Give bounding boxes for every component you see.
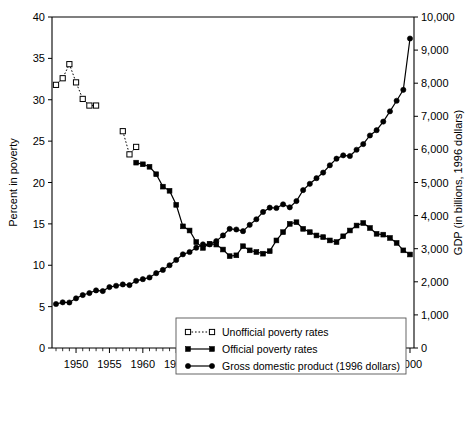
data-point-marker xyxy=(267,205,272,210)
data-point-marker xyxy=(274,238,279,243)
data-point-marker xyxy=(341,153,346,158)
data-point-marker xyxy=(321,170,326,175)
data-point-marker xyxy=(87,103,92,108)
left-axis-tick-label: 25 xyxy=(33,135,45,147)
poverty-gdp-chart: 051015202530354001,0002,0003,0004,0005,0… xyxy=(0,0,473,421)
data-point-marker xyxy=(287,221,292,226)
data-point-marker xyxy=(209,363,214,368)
data-point-marker xyxy=(401,248,406,253)
data-point-marker xyxy=(247,222,252,227)
data-point-marker xyxy=(67,300,72,305)
data-point-marker xyxy=(327,238,332,243)
data-point-marker xyxy=(73,296,78,301)
data-point-marker xyxy=(280,202,285,207)
data-point-marker xyxy=(53,82,58,87)
data-point-marker xyxy=(334,156,339,161)
data-point-marker xyxy=(327,163,332,168)
right-axis-tick-label: 1,000 xyxy=(421,309,449,321)
data-point-marker xyxy=(361,221,366,226)
data-point-marker xyxy=(167,188,172,193)
legend-item-label: Official poverty rates xyxy=(222,343,318,355)
data-point-marker xyxy=(140,277,145,282)
data-point-marker xyxy=(367,133,372,138)
data-point-marker xyxy=(361,142,366,147)
data-point-marker xyxy=(100,288,105,293)
data-point-marker xyxy=(307,181,312,186)
data-point-marker xyxy=(134,278,139,283)
data-point-marker xyxy=(368,226,373,231)
data-point-marker xyxy=(407,36,412,41)
series-line xyxy=(56,39,410,304)
data-point-marker xyxy=(194,240,199,245)
data-point-marker xyxy=(147,275,152,280)
data-point-marker xyxy=(60,76,65,81)
left-axis-title: Percent in poverty xyxy=(7,138,19,227)
series-line xyxy=(123,131,136,154)
data-point-marker xyxy=(347,153,352,158)
right-axis-title: GDP (in billions, 1996 dollars) xyxy=(452,110,464,255)
data-point-marker xyxy=(167,263,172,268)
series-gross-domestic-product-1996-dollars xyxy=(53,36,412,307)
left-axis-tick-label: 10 xyxy=(33,259,45,271)
data-point-marker xyxy=(347,228,352,233)
data-point-marker xyxy=(200,242,205,247)
left-axis-tick-label: 5 xyxy=(39,301,45,313)
data-point-marker xyxy=(174,257,179,262)
data-point-marker xyxy=(73,80,78,85)
data-point-marker xyxy=(67,62,72,67)
data-point-marker xyxy=(160,184,165,189)
data-point-marker xyxy=(381,232,386,237)
right-axis-tick-label: 8,000 xyxy=(421,77,449,89)
data-point-marker xyxy=(220,233,225,238)
data-point-marker xyxy=(60,300,65,305)
data-point-marker xyxy=(234,227,239,232)
data-point-marker xyxy=(93,288,98,293)
right-axis-tick-label: 6,000 xyxy=(421,143,449,155)
data-point-marker xyxy=(180,252,185,257)
data-point-marker xyxy=(341,234,346,239)
data-point-marker xyxy=(181,224,186,229)
chart-legend: Unofficial poverty ratesOfficial poverty… xyxy=(176,318,406,374)
data-point-marker xyxy=(394,241,399,246)
data-point-marker xyxy=(401,87,406,92)
data-point-marker xyxy=(114,283,119,288)
series-official-poverty-rates xyxy=(134,160,413,258)
data-point-marker xyxy=(274,205,279,210)
left-axis-tick-label: 0 xyxy=(39,342,45,354)
data-point-marker xyxy=(307,230,312,235)
data-point-marker xyxy=(388,236,393,241)
series-unofficial-poverty-rates xyxy=(53,62,138,157)
data-point-marker xyxy=(53,301,58,306)
data-point-marker xyxy=(120,129,125,134)
data-point-marker xyxy=(254,217,259,222)
x-axis-tick-label: 1955 xyxy=(97,358,121,370)
data-point-marker xyxy=(147,164,152,169)
data-point-marker xyxy=(210,347,215,352)
data-point-marker xyxy=(214,238,219,243)
data-point-marker xyxy=(354,147,359,152)
series-line xyxy=(136,163,410,257)
data-point-marker xyxy=(234,253,239,258)
data-point-marker xyxy=(107,284,112,289)
legend-item-label: Gross domestic product (1996 dollars) xyxy=(222,360,400,372)
data-point-marker xyxy=(174,202,179,207)
data-point-marker xyxy=(240,229,245,234)
data-point-marker xyxy=(301,226,306,231)
left-axis-tick-label: 40 xyxy=(33,11,45,23)
x-axis-tick-label: 1960 xyxy=(131,358,155,370)
data-point-marker xyxy=(227,226,232,231)
data-point-marker xyxy=(227,254,232,259)
chart-canvas: 051015202530354001,0002,0003,0004,0005,0… xyxy=(0,0,473,421)
left-axis-tick-label: 35 xyxy=(33,52,45,64)
data-point-marker xyxy=(134,144,139,149)
data-point-marker xyxy=(267,249,272,254)
data-point-marker xyxy=(408,252,413,257)
data-point-marker xyxy=(241,244,246,249)
right-axis-tick-label: 0 xyxy=(421,342,427,354)
data-point-marker xyxy=(80,96,85,101)
right-axis-tick-label: 10,000 xyxy=(421,11,455,23)
data-point-marker xyxy=(185,363,190,368)
data-point-marker xyxy=(321,235,326,240)
data-point-marker xyxy=(154,271,159,276)
data-point-marker xyxy=(134,160,139,165)
